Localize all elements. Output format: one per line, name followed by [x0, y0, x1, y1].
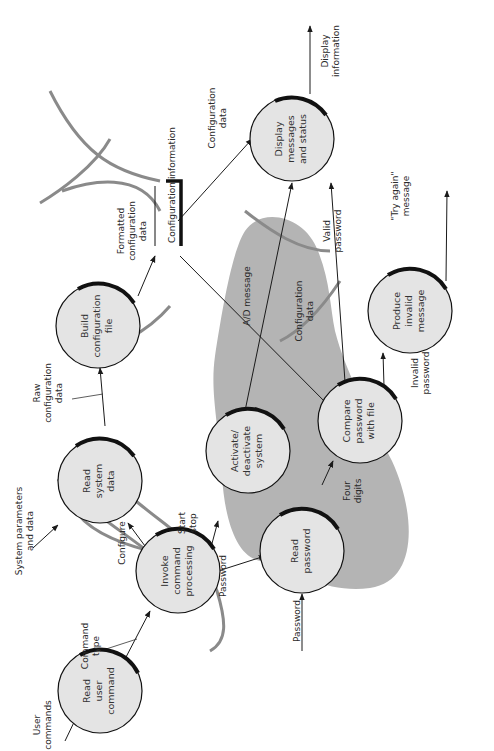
process-produce-invalid-message: Produce invalid message — [368, 269, 452, 353]
flow-configuration-data-to-display — [178, 139, 252, 221]
label-raw-configuration-data: Raw configuration data — [32, 363, 64, 423]
svg-text:configuration: configuration — [127, 201, 137, 261]
svg-text:Display: Display — [273, 121, 284, 156]
svg-text:invalid: invalid — [403, 295, 414, 326]
svg-text:and data: and data — [25, 511, 35, 551]
process-invoke-command-processing: Invoke command processing — [136, 529, 220, 613]
svg-text:type: type — [91, 635, 101, 656]
flow-formatted-configuration-data — [138, 256, 155, 296]
svg-text:password: password — [353, 398, 364, 443]
diagram-canvas: Configuration information Read user comm… — [14, 25, 452, 750]
svg-text:and status: and status — [297, 114, 308, 164]
svg-text:data: data — [218, 108, 228, 128]
svg-text:command: command — [105, 667, 116, 714]
svg-text:Configuration: Configuration — [294, 280, 304, 341]
label-configuration-data-to-display: Configuration data — [207, 87, 228, 148]
svg-text:messages: messages — [285, 115, 296, 163]
label-password-external: Password — [292, 600, 302, 642]
svg-text:with file: with file — [365, 402, 376, 440]
label-valid-password: Valid password — [322, 210, 343, 253]
svg-text:User: User — [32, 714, 42, 735]
process-activate-deactivate-system: Activate/ deactivate system — [206, 409, 290, 493]
svg-text:message: message — [415, 290, 426, 333]
label-password-internal: Password — [218, 555, 228, 597]
svg-text:Valid: Valid — [322, 220, 332, 242]
svg-text:Password: Password — [292, 600, 302, 642]
svg-text:system: system — [253, 434, 264, 468]
svg-text:information: information — [331, 25, 341, 77]
svg-text:system: system — [93, 464, 104, 498]
process-display-messages-and-status: Display messages and status — [250, 97, 334, 181]
label-start-stop: Start stop — [177, 512, 198, 534]
label-configure: Configure — [117, 521, 127, 565]
svg-text:deactivate: deactivate — [241, 426, 252, 476]
process-compare-password-with-file: Compare password with file — [318, 379, 402, 463]
svg-text:password: password — [301, 528, 312, 573]
svg-text:Start: Start — [177, 512, 187, 534]
flow-command-type — [125, 611, 150, 659]
data-flow-diagram: Configuration information Read user comm… — [0, 0, 494, 751]
svg-text:Password: Password — [218, 555, 228, 597]
svg-text:password: password — [333, 210, 343, 253]
data-store-configuration-information: Configuration information — [155, 127, 181, 246]
svg-text:Activate/: Activate/ — [229, 429, 240, 472]
svg-text:Produce: Produce — [391, 292, 402, 330]
svg-text:configuration: configuration — [91, 294, 102, 357]
leader-raw-configuration-data — [72, 394, 103, 399]
svg-text:data: data — [305, 301, 315, 321]
label-invalid-password: Invalid password — [410, 352, 431, 395]
process-build-configuration-file: Build configuration file — [56, 284, 140, 368]
flow-raw-configuration-data — [100, 368, 105, 426]
label-four-digits: Four digits — [342, 478, 363, 503]
process-read-password: Read password — [260, 509, 344, 593]
svg-text:Invoke: Invoke — [159, 555, 170, 586]
svg-text:System parameters: System parameters — [14, 486, 24, 575]
svg-text:Read: Read — [289, 539, 300, 563]
svg-text:data: data — [105, 470, 116, 491]
svg-text:Invalid: Invalid — [410, 358, 420, 388]
svg-text:Configuration: Configuration — [207, 87, 217, 148]
svg-text:commands: commands — [43, 700, 53, 750]
svg-text:Raw: Raw — [32, 384, 42, 403]
label-formatted-configuration-data: Formatted configuration data — [116, 201, 148, 261]
svg-text:password: password — [421, 352, 431, 395]
process-read-user-command: Read user command — [58, 649, 142, 733]
svg-text:Read: Read — [81, 469, 92, 493]
svg-text:Read: Read — [81, 679, 92, 703]
svg-text:data: data — [54, 383, 64, 403]
label-ad-message: A/D message — [242, 266, 252, 326]
label-system-parameters: System parameters and data — [14, 486, 35, 575]
data-store-label: Configuration information — [167, 127, 177, 243]
boundary-arc — [62, 182, 160, 211]
label-user-commands: User commands — [32, 700, 53, 750]
svg-text:A/D message: A/D message — [242, 266, 252, 326]
svg-text:user: user — [93, 681, 104, 702]
label-display-information: Display information — [320, 25, 341, 77]
svg-text:"Try again": "Try again" — [390, 171, 400, 220]
boundary-arc — [50, 91, 160, 181]
svg-text:configuration: configuration — [43, 363, 53, 423]
svg-text:data: data — [138, 221, 148, 241]
svg-text:Compare: Compare — [341, 399, 352, 442]
svg-text:Command: Command — [80, 623, 90, 669]
process-read-system-data: Read system data — [58, 439, 142, 523]
svg-text:processing: processing — [183, 545, 194, 596]
label-try-again-message: "Try again" message — [390, 171, 411, 220]
svg-text:Configure: Configure — [117, 521, 127, 565]
svg-text:message: message — [401, 175, 411, 216]
svg-text:Four: Four — [342, 481, 352, 501]
svg-text:command: command — [171, 547, 182, 594]
svg-text:Formatted: Formatted — [116, 208, 126, 255]
svg-text:Display: Display — [320, 34, 330, 68]
svg-text:file: file — [103, 319, 114, 334]
flow-try-again-message — [446, 191, 447, 281]
flow-invalid-password — [383, 353, 384, 386]
svg-text:stop: stop — [188, 513, 198, 533]
boundary-arc — [40, 139, 110, 203]
svg-text:Build: Build — [79, 314, 90, 338]
svg-text:digits: digits — [353, 478, 363, 503]
flow-system-parameters — [33, 525, 58, 548]
